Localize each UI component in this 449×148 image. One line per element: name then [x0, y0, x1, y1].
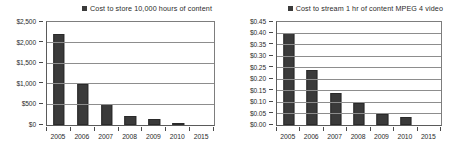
chart-panel-store-cost: Cost to store 10,000 hours of content $0…: [0, 0, 224, 148]
x-tick-label: 2010: [397, 133, 412, 140]
x-tick-mark: [189, 127, 190, 131]
y-tick-mark: [39, 62, 43, 63]
x-tick-mark: [70, 127, 71, 131]
gridline: [47, 42, 214, 43]
bar-slot: [95, 22, 119, 125]
bar: [149, 119, 160, 125]
bar-slot: [371, 22, 394, 125]
y-axis-labels: $0.00$0.05$0.10$0.15$0.20$0.25$0.30$0.35…: [224, 21, 273, 126]
bar: [101, 104, 112, 125]
x-tick-mark: [370, 127, 371, 131]
y-tick-label: $0: [29, 121, 36, 128]
bar: [330, 93, 341, 125]
y-tick-label: $0.20: [250, 75, 266, 82]
plot-area: [276, 21, 442, 126]
y-tick-mark: [269, 101, 273, 102]
bar-slot: [166, 22, 190, 125]
y-tick-mark: [39, 82, 43, 83]
gridline: [277, 113, 441, 114]
bar-slot: [71, 22, 95, 125]
gridline: [277, 56, 441, 57]
chart-legend: Cost to store 10,000 hours of content: [0, 2, 224, 15]
bar-slot: [190, 22, 214, 125]
y-tick-label: $2,500: [16, 18, 36, 25]
bar: [53, 34, 64, 125]
y-tick-label: $2,000: [16, 38, 36, 45]
x-tick-label: 2009: [374, 133, 389, 140]
x-tick-label: 2005: [51, 133, 66, 140]
x-tick-label: 2008: [351, 133, 366, 140]
x-tick-mark: [276, 127, 277, 131]
x-tick-mark: [141, 127, 142, 131]
bar: [400, 117, 411, 125]
x-tick-label: 2005: [280, 133, 295, 140]
x-tick-label: 2010: [170, 133, 185, 140]
y-tick-label: $500: [22, 100, 36, 107]
gridline: [277, 79, 441, 80]
two-chart-figure: Cost to store 10,000 hours of content $0…: [0, 0, 449, 148]
y-tick-label: $1,000: [16, 79, 36, 86]
y-tick-label: $0.40: [250, 29, 266, 36]
y-tick-label: $0.25: [250, 63, 266, 70]
y-tick-label: $0.35: [250, 40, 266, 47]
x-tick-mark: [323, 127, 324, 131]
bar-slot: [347, 22, 370, 125]
x-tick-mark: [118, 127, 119, 131]
y-tick-mark: [269, 78, 273, 79]
bar-slot: [47, 22, 71, 125]
y-tick-mark: [269, 112, 273, 113]
y-tick-mark: [39, 124, 43, 125]
y-tick-label: $1,500: [16, 59, 36, 66]
x-axis: 2005200620072008200920102015: [276, 127, 442, 143]
chart-legend: Cost to stream 1 hr of content MPEG 4 vi…: [224, 2, 449, 15]
bar-slot: [142, 22, 166, 125]
y-tick-mark: [269, 89, 273, 90]
y-tick-mark: [269, 55, 273, 56]
x-tick-mark: [94, 127, 95, 131]
y-tick-label: $0.15: [250, 86, 266, 93]
x-tick-label: 2009: [146, 133, 161, 140]
bar-series: [47, 22, 214, 125]
x-tick-mark: [417, 127, 418, 131]
bar: [172, 123, 183, 125]
x-tick-label: 2007: [98, 133, 113, 140]
y-tick-mark: [269, 21, 273, 22]
x-tick-mark: [440, 127, 441, 131]
y-tick-mark: [269, 43, 273, 44]
x-tick-label: 2008: [122, 133, 137, 140]
legend-label: Cost to stream 1 hr of content MPEG 4 vi…: [296, 4, 443, 13]
y-tick-label: $0.45: [250, 18, 266, 25]
y-tick-mark: [269, 124, 273, 125]
x-tick-mark: [165, 127, 166, 131]
x-tick-mark: [299, 127, 300, 131]
gridline: [47, 104, 214, 105]
square-marker-icon: [82, 6, 87, 11]
y-tick-mark: [39, 41, 43, 42]
x-tick-mark: [393, 127, 394, 131]
gridline: [47, 83, 214, 84]
legend-label: Cost to store 10,000 hours of content: [90, 4, 212, 13]
y-tick-label: $0.10: [250, 98, 266, 105]
plot-area: [46, 21, 215, 126]
y-tick-mark: [269, 32, 273, 33]
square-marker-icon: [288, 6, 293, 11]
x-tick-mark: [213, 127, 214, 131]
gridline: [277, 67, 441, 68]
bar-series: [277, 22, 441, 125]
y-tick-label: $0.30: [250, 52, 266, 59]
x-tick-label: 2015: [421, 133, 436, 140]
bar-slot: [418, 22, 441, 125]
x-tick-label: 2006: [304, 133, 319, 140]
bar: [353, 103, 364, 125]
bar-slot: [324, 22, 347, 125]
y-tick-mark: [39, 103, 43, 104]
x-tick-label: 2015: [194, 133, 209, 140]
x-tick-mark: [46, 127, 47, 131]
gridline: [277, 44, 441, 45]
bar-slot: [119, 22, 143, 125]
gridline: [277, 102, 441, 103]
y-axis-labels: $0$500$1,000$1,500$2,000$2,500: [0, 21, 43, 126]
x-tick-label: 2006: [74, 133, 89, 140]
gridline: [277, 33, 441, 34]
x-axis: 2005200620072008200920102015: [46, 127, 215, 143]
